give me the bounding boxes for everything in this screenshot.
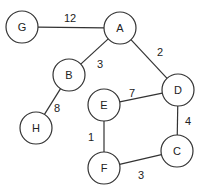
node-label: H <box>32 122 40 134</box>
weighted-graph: 123287413 GABDEHCF <box>0 0 201 195</box>
node-label: F <box>101 162 108 174</box>
edge-weight-label: 7 <box>129 87 135 99</box>
nodes-layer: GABDEHCF <box>6 11 194 184</box>
node-b: B <box>53 59 85 91</box>
edge-a-b <box>81 39 108 64</box>
edge-weight-label: 8 <box>54 102 60 114</box>
edge-weight-label: 2 <box>157 46 163 58</box>
node-c: C <box>161 135 193 167</box>
node-a: A <box>104 12 136 44</box>
edge-weight-label: 3 <box>138 169 144 181</box>
node-e: E <box>88 89 120 121</box>
edge-g-a <box>38 27 104 28</box>
node-g: G <box>6 11 38 43</box>
edge-weight-label: 4 <box>185 115 191 127</box>
edge-weight-label: 12 <box>64 12 76 24</box>
node-label: B <box>65 69 72 81</box>
node-label: A <box>116 22 124 34</box>
node-label: D <box>174 84 182 96</box>
node-d: D <box>162 74 194 106</box>
node-h: H <box>20 112 52 144</box>
node-f: F <box>88 152 120 184</box>
edge-f-c <box>120 155 162 165</box>
edge-e-d <box>120 93 163 102</box>
node-label: E <box>100 99 107 111</box>
node-label: G <box>18 21 27 33</box>
node-label: C <box>173 145 181 157</box>
edge-weight-label: 1 <box>88 131 94 143</box>
edge-weight-label: 3 <box>97 58 103 70</box>
